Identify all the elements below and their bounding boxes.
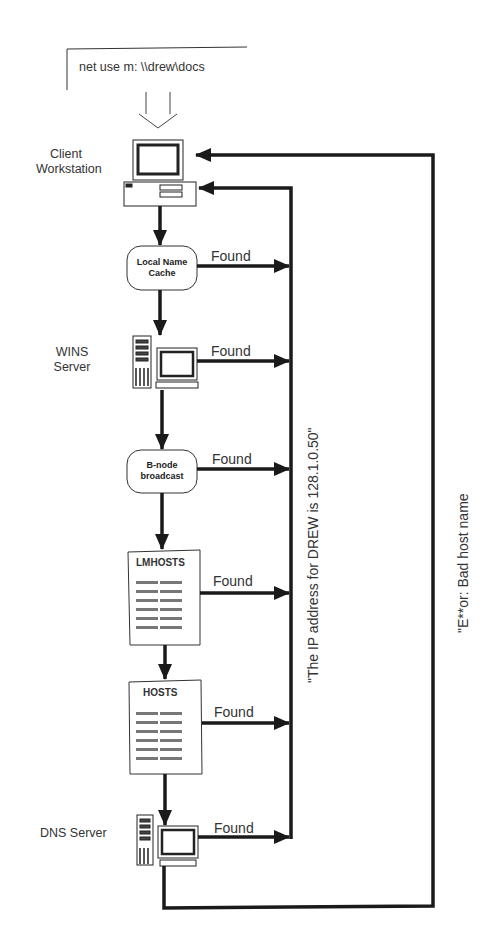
found-label-dns: Found xyxy=(214,820,254,836)
lmhosts-title: LMHOSTS xyxy=(136,557,185,568)
local-name-cache-label: Local Name Cache xyxy=(127,257,197,279)
dns-server-icon xyxy=(137,815,198,866)
client-label-line1: Client xyxy=(36,147,96,162)
bnode-broadcast-label: B-node broadcast xyxy=(127,460,197,482)
cache-label-line2: Cache xyxy=(127,268,197,279)
wins-server-icon xyxy=(133,336,198,388)
cache-label-line1: Local Name xyxy=(127,257,197,268)
success-message: "The IP address for DREW is 128.1.0.50" xyxy=(305,427,321,683)
found-label-hosts: Found xyxy=(214,704,254,720)
wins-server-label: WINS Server xyxy=(50,345,94,375)
wins-label-line2: Server xyxy=(50,360,94,375)
client-workstation-label: Client Workstation xyxy=(36,147,96,177)
dns-server-label: DNS Server xyxy=(40,826,107,841)
command-text: net use m: \\drew\docs xyxy=(79,60,205,74)
error-return-line xyxy=(164,155,433,908)
hosts-title: HOSTS xyxy=(143,687,177,698)
success-return-line xyxy=(199,188,291,839)
found-label-wins: Found xyxy=(211,343,251,359)
found-label-lmhosts: Found xyxy=(213,573,253,589)
bnode-label-line2: broadcast xyxy=(127,471,197,482)
found-label-bnode: Found xyxy=(212,451,252,467)
input-arrow-icon xyxy=(139,92,177,128)
wins-label-line1: WINS xyxy=(50,345,94,360)
client-label-line2: Workstation xyxy=(36,162,96,177)
found-label-cache: Found xyxy=(211,248,251,264)
error-message: "E**or: Bad host name xyxy=(455,493,471,633)
name-resolution-diagram xyxy=(0,0,492,949)
client-workstation-icon xyxy=(124,140,196,206)
bnode-label-line1: B-node xyxy=(127,460,197,471)
